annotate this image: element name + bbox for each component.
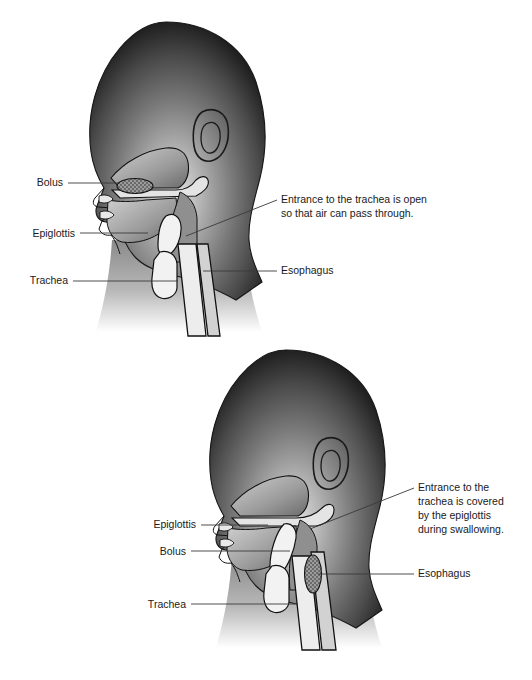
label-epiglottis-bottom: Epiglottis bbox=[153, 518, 196, 530]
figure-swallowing bbox=[210, 350, 385, 650]
swallowing-diagram: Bolus Epiglottis Trachea Entrance to the… bbox=[0, 0, 532, 680]
label-bolus-bottom: Bolus bbox=[160, 545, 186, 557]
label-esophagus-bottom: Esophagus bbox=[418, 567, 471, 579]
larynx bbox=[264, 566, 289, 613]
figure-breathing bbox=[90, 22, 265, 336]
label-trachea-top: Trachea bbox=[30, 274, 68, 286]
label-bolus-top: Bolus bbox=[37, 176, 63, 188]
diagram-canvas: Bolus Epiglottis Trachea Entrance to the… bbox=[0, 0, 532, 680]
label-trachea-bottom: Trachea bbox=[148, 598, 186, 610]
larynx bbox=[152, 252, 177, 299]
label-trachea-entrance-top: Entrance to the trachea is open so that … bbox=[281, 193, 430, 219]
label-epiglottis-top: Epiglottis bbox=[32, 227, 75, 239]
label-esophagus-top: Esophagus bbox=[281, 264, 334, 276]
label-trachea-covered-bottom: Entrance to the trachea is covered by th… bbox=[418, 481, 507, 535]
bolus-mass bbox=[117, 179, 153, 194]
